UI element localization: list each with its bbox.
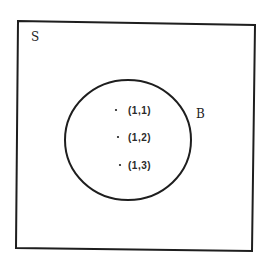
universe-label: S (31, 30, 39, 44)
element-label: (1,3) (128, 160, 151, 171)
venn-diagram: S B (1,1) (1,2) (1,3) (0, 0, 270, 266)
set-b-label: B (196, 107, 205, 121)
element-label: (1,2) (128, 132, 151, 143)
element-dot (117, 136, 119, 138)
element-dot (119, 164, 121, 166)
element-label: (1,1) (128, 105, 151, 116)
element-dot (115, 109, 117, 111)
